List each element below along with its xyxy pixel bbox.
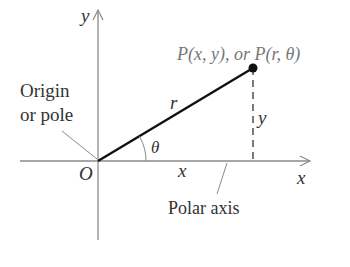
origin-label: O: [79, 163, 93, 184]
y-axis: [93, 10, 103, 240]
radius-label: r: [170, 92, 178, 113]
x-axis: [20, 156, 310, 166]
pole-callout-line: [62, 131, 97, 159]
polar-diagram: y x O Origin or pole P(x, y), or P(r, θ)…: [0, 0, 350, 267]
point-label: P(x, y), or P(r, θ): [176, 44, 300, 65]
y-segment-label: y: [256, 107, 267, 128]
origin-callout-line2: or pole: [20, 104, 73, 125]
radius-line: [98, 68, 253, 161]
y-axis-label: y: [79, 5, 90, 26]
x-segment-label: x: [177, 160, 187, 181]
x-axis-label: x: [296, 167, 306, 188]
angle-label: θ: [151, 138, 159, 157]
angle-arc: [140, 137, 147, 162]
origin-callout-line1: Origin: [20, 80, 70, 101]
polar-axis-label: Polar axis: [168, 198, 240, 218]
polar-axis-callout-line: [217, 163, 227, 194]
point-p: [249, 64, 258, 73]
